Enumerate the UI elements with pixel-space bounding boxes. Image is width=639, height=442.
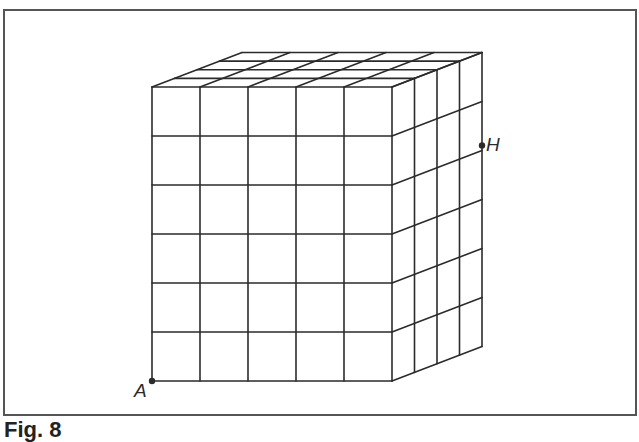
point-a-label: A (133, 380, 147, 401)
point-h-label: H (486, 134, 500, 155)
figure-caption: Fig. 8 (4, 419, 61, 441)
point-a-marker (149, 378, 155, 384)
grid-lines (152, 53, 482, 382)
point-h-marker (479, 142, 485, 148)
